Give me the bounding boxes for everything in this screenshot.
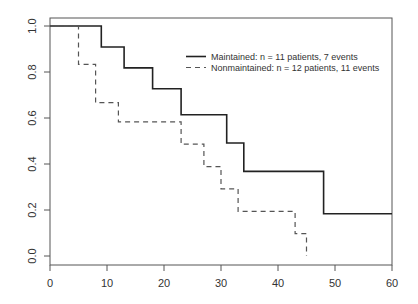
x-tick-label: 0 (47, 277, 53, 289)
y-tick-label: 0.0 (26, 248, 38, 263)
x-tick-label: 60 (386, 277, 398, 289)
y-tick-label: 0.2 (26, 202, 38, 217)
y-tick-label: 1.0 (26, 18, 38, 33)
x-tick-label: 20 (158, 277, 170, 289)
x-axis: 0102030405060 (47, 265, 398, 289)
y-tick-label: 0.8 (26, 64, 38, 79)
legend-label: Maintained: n = 11 patients, 7 events (211, 52, 358, 62)
x-tick-label: 10 (101, 277, 113, 289)
legend: Maintained: n = 11 patients, 7 eventsNon… (186, 52, 380, 73)
y-axis: 0.00.20.40.60.81.0 (26, 18, 50, 263)
y-tick-label: 0.6 (26, 110, 38, 125)
x-tick-label: 40 (272, 277, 284, 289)
x-tick-label: 30 (215, 277, 227, 289)
legend-label: Nonmaintained: n = 12 patients, 11 event… (211, 63, 380, 73)
y-tick-label: 0.4 (26, 156, 38, 171)
survival-chart: 0.00.20.40.60.81.0 0102030405060 Maintai… (0, 0, 418, 304)
x-tick-label: 50 (329, 277, 341, 289)
